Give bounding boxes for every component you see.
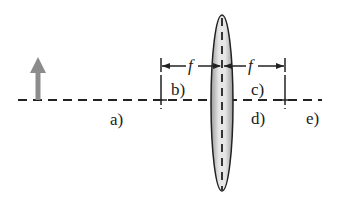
position-label-b: b)	[171, 80, 185, 99]
focal-label-left: f	[188, 56, 195, 75]
lens-diagram: f f a) b) c) d) e)	[0, 0, 340, 197]
position-label-a: a)	[110, 110, 123, 129]
position-label-d: d)	[251, 109, 265, 128]
position-label-c: c)	[251, 80, 264, 99]
focal-length-right	[224, 63, 284, 69]
object-arrow-icon	[30, 57, 46, 100]
position-label-e: e)	[306, 109, 319, 128]
focal-label-right: f	[248, 56, 255, 75]
